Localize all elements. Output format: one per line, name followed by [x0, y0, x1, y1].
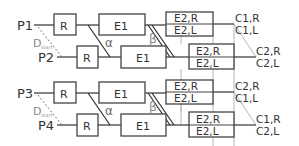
alpha-label: α [105, 104, 113, 118]
alpha-label: α [105, 36, 113, 50]
r-top-label: R [60, 20, 68, 33]
e2-top-r-label: E2,R [174, 80, 198, 92]
r-bottom-label: R [83, 120, 91, 133]
group-1: P1 P2 D start R R E1 E1 α β E2,R E2,L E2… [17, 12, 281, 69]
e2-bottom-l-label: E2,L [196, 125, 219, 137]
input-p2-label: P2 [38, 50, 54, 65]
dstart-subscript: start [41, 44, 53, 50]
e1-top-label: E1 [114, 20, 128, 33]
e1-bottom-label: E1 [136, 52, 150, 65]
e2-bottom-r-label: E2,R [196, 113, 220, 125]
e1-bottom-label: E1 [136, 120, 150, 133]
input-p4-label: P4 [38, 118, 54, 133]
e2-top-r-label: E2,R [174, 12, 198, 24]
output-c1l-label: C1,L [235, 92, 258, 104]
r-bottom-label: R [83, 52, 91, 65]
output-c1l-label: C1,L [235, 24, 258, 36]
group-2: P3 P4 D start R R E1 E1 α β E2,R E2,L E2… [17, 80, 281, 137]
input-p1-label: P1 [17, 18, 33, 33]
e2-bottom-l-label: E2,L [196, 57, 219, 69]
diagram-canvas: P1 P2 D start R R E1 E1 α β E2,R E2,L E2… [0, 0, 299, 146]
e2-top-l-label: E2,L [174, 24, 197, 36]
r-top-label: R [60, 88, 68, 101]
output-c2r-label: C2,R [256, 45, 281, 57]
output-c2l-label: C2,L [256, 57, 279, 69]
output-c2r-label: C2,R [235, 80, 260, 92]
beta-label: β [149, 32, 157, 46]
output-c2l-label: C2,L [256, 125, 279, 137]
e1-top-label: E1 [114, 88, 128, 101]
e2-top-l-label: E2,L [174, 92, 197, 104]
output-c1r-label: C1,R [256, 113, 281, 125]
e2-bottom-r-label: E2,R [196, 45, 220, 57]
beta-label: β [149, 100, 157, 114]
input-p3-label: P3 [17, 86, 33, 101]
output-c1r-label: C1,R [235, 12, 260, 24]
dstart-subscript: start [41, 112, 53, 118]
